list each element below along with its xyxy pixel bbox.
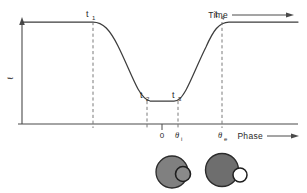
svg-text:θ: θ — [175, 130, 179, 140]
companion-disk-icon — [176, 167, 191, 182]
y-axis — [19, 17, 25, 124]
light-curve-path — [22, 22, 298, 101]
time-axis-label: Time — [208, 10, 228, 20]
tick-label-theta-e: θ e — [218, 130, 228, 142]
light-curve-figure: ℓ Time Phase t 1 t 2 t 3 t 4 0 θ i θ e — [0, 0, 307, 193]
inset-ingress-configuration — [156, 156, 191, 188]
svg-text:i: i — [181, 136, 182, 142]
svg-text:t: t — [86, 9, 89, 19]
tick-label-origin: 0 — [160, 131, 165, 140]
svg-text:1: 1 — [92, 15, 96, 21]
contact-label-t2: t 2 — [140, 90, 150, 102]
svg-text:t: t — [172, 90, 175, 100]
y-axis-label: ℓ — [6, 76, 15, 80]
companion-disk-icon — [233, 168, 247, 182]
svg-text:e: e — [224, 136, 228, 142]
inset-egress-configuration — [206, 154, 248, 187]
contact-label-t1: t 1 — [86, 9, 96, 21]
tick-label-theta-i: θ i — [175, 130, 182, 142]
phase-axis-arrow — [267, 133, 299, 138]
phase-axis-label: Phase — [237, 131, 263, 141]
primary-disk-icon — [206, 154, 239, 187]
svg-text:θ: θ — [218, 130, 222, 140]
time-axis — [232, 12, 294, 17]
